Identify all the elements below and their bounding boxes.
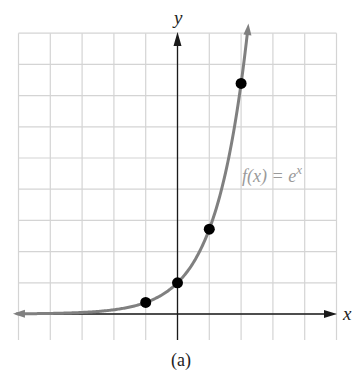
x-axis-label: x <box>342 303 352 324</box>
figure-caption: (a) <box>0 350 362 371</box>
data-point <box>236 78 247 89</box>
data-point <box>204 224 215 235</box>
function-label: f(x) = ex <box>242 162 302 187</box>
data-point <box>140 297 151 308</box>
exponential-graph: x y f(x) = ex <box>0 0 362 340</box>
data-points <box>140 78 246 308</box>
curve-arrow-up-icon <box>243 23 251 35</box>
x-axis-arrow-icon <box>324 310 337 318</box>
exp-curve <box>13 23 252 317</box>
y-axis-arrow-icon <box>174 32 182 46</box>
y-axis-label: y <box>172 7 183 28</box>
data-point <box>172 277 183 288</box>
